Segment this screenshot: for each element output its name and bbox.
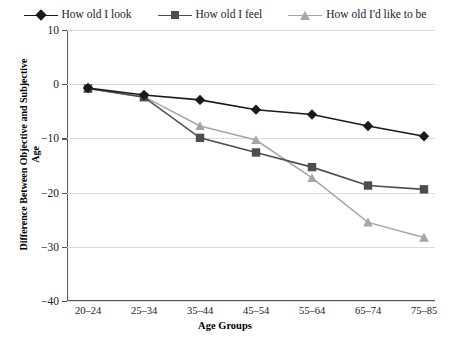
x-tick-label: 35–44 — [175, 305, 225, 316]
plot-area — [67, 30, 435, 301]
legend-item-how-old-i-feel[interactable]: How old I feel — [158, 9, 263, 21]
legend-item-how-old-id-like-to-be[interactable]: How old I'd like to be — [288, 9, 426, 21]
y-tick-label: −30 — [31, 241, 59, 253]
chart-figure: How old I look How old I feel How old I'… — [0, 0, 450, 338]
x-axis-title: Age Groups — [0, 320, 450, 331]
legend-marker-square-icon — [158, 9, 192, 21]
legend-label-0: How old I look — [62, 9, 132, 21]
gridline — [67, 301, 435, 302]
x-tick-label: 65–74 — [343, 305, 393, 316]
chart-legend: How old I look How old I feel How old I'… — [0, 4, 450, 26]
x-tick-label: 55–64 — [287, 305, 337, 316]
legend-marker-triangle-icon — [288, 9, 322, 21]
x-tick-label: 25–34 — [119, 305, 169, 316]
legend-label-1: How old I feel — [196, 9, 263, 21]
legend-label-2: How old I'd like to be — [326, 9, 426, 21]
y-tick-label: 10 — [31, 24, 59, 36]
y-tick-label: −10 — [31, 132, 59, 144]
y-tick-label: −20 — [31, 187, 59, 199]
x-tick-label: 75–85 — [399, 305, 449, 316]
y-tick-label: −40 — [31, 295, 59, 307]
data-series-layer — [67, 30, 435, 301]
legend-item-how-old-i-look[interactable]: How old I look — [24, 9, 132, 21]
y-axis-tick — [62, 301, 67, 302]
x-tick-label: 20–24 — [63, 305, 113, 316]
x-tick-label: 45–54 — [231, 305, 281, 316]
y-tick-label: 0 — [31, 78, 59, 90]
legend-marker-diamond-icon — [24, 9, 58, 21]
series-diamond — [83, 83, 429, 142]
